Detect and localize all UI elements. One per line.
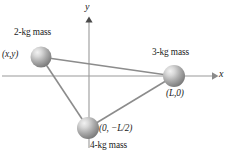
- y-axis-arrowhead: [85, 17, 92, 23]
- edge-4kg-to-3kg: [88, 76, 174, 128]
- sphere-3kg-mass: [163, 65, 185, 87]
- triangle-edges-group: [41, 57, 174, 128]
- y-axis-label: y: [85, 2, 89, 12]
- edge-2kg-to-3kg: [41, 57, 174, 76]
- physics-triangle-masses-figure: y x 2-kg mass (x,y) 3-kg mass (L,0) (0, …: [0, 0, 227, 155]
- mass-2kg-label: 2-kg mass: [14, 28, 51, 37]
- mass-2kg-coordinate: (x,y): [2, 50, 18, 59]
- edge-2kg-to-4kg: [41, 57, 88, 128]
- x-axis-arrowhead: [212, 72, 219, 80]
- mass-4kg-label: 4-kg mass: [90, 141, 127, 150]
- x-axis-label: x: [219, 69, 223, 79]
- mass-4kg-coordinate: (0, −L/2): [99, 124, 132, 133]
- mass-3kg-label: 3-kg mass: [152, 48, 189, 57]
- sphere-2kg-mass: [31, 47, 52, 68]
- sphere-4kg-mass: [77, 117, 99, 139]
- mass-3kg-coordinate: (L,0): [166, 89, 184, 98]
